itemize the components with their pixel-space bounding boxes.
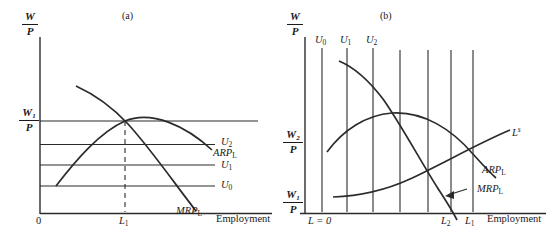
panel-b-w2-denominator: P	[283, 144, 303, 156]
panel-b-w2-numerator: W2	[283, 129, 303, 141]
panel-a-label-arp: ARPL	[213, 148, 237, 159]
panel-a-arp-curve	[56, 117, 212, 186]
panel-a-wage-label: W1 P	[19, 107, 39, 133]
panel-a-x-axis-label: Employment	[216, 214, 270, 225]
panel-b-y-axis-numerator: W	[287, 11, 303, 23]
panel-a-label-u2: U2	[221, 137, 232, 148]
panel-a-label-u1: U1	[221, 160, 232, 171]
panel-b-label-ls: Ls	[512, 128, 521, 139]
panel-b-wage-label-w2: W2 P	[283, 129, 303, 155]
panel-a-mrp-curve	[76, 86, 196, 211]
panel-b-wage-label-w1: W1 P	[283, 189, 303, 215]
panel-a-label-mrp: MRPL	[176, 206, 202, 217]
panel-b-label-mrp: MRPL	[477, 184, 503, 195]
panel-a-y-axis-numerator: W	[22, 11, 38, 23]
panel-b-xtick-l2: L2	[441, 216, 451, 227]
panel-b-y-axis-label: W P	[287, 11, 303, 37]
panel-b-label-u0: U0	[315, 35, 326, 46]
panel-b-mrp-arrow-head	[445, 191, 454, 199]
panel-a-xtick-l1: L1	[119, 216, 129, 227]
panel-b-title: (b)	[380, 11, 392, 21]
panel-a-y-axis-denominator: P	[22, 26, 38, 38]
panel-b-y-axis-denominator: P	[287, 26, 303, 38]
panel-b-label-arp: ARPL	[482, 165, 506, 176]
panel-b-label-u2: U2	[366, 35, 377, 46]
panel-b-w1-numerator: W1	[283, 189, 303, 201]
panel-b-mrp-curve	[339, 61, 457, 220]
panel-a-origin-label: 0	[36, 216, 41, 227]
panel-a-wage-denominator: P	[19, 122, 39, 134]
panel-b-origin-label: L = 0	[308, 216, 331, 227]
panel-b	[300, 37, 546, 220]
panel-a-title: (a)	[122, 11, 133, 21]
panel-b-label-u1: U1	[340, 35, 351, 46]
panel-b-x-axis-label: Employment	[487, 214, 541, 225]
panel-a-y-axis-label: W P	[22, 11, 38, 37]
figure-canvas	[0, 0, 559, 247]
panel-b-xtick-l1: L1	[465, 216, 475, 227]
panel-a-wage-numerator: W1	[19, 107, 39, 119]
panel-b-w1-denominator: P	[283, 204, 303, 216]
panel-a-label-u0: U0	[221, 180, 232, 191]
panel-a	[40, 37, 272, 214]
